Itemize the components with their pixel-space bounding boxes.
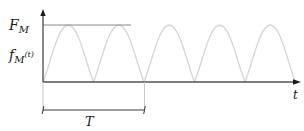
y-axis-arrow-icon: [40, 9, 45, 16]
rectified-sine-curve: [43, 25, 296, 82]
function-label: fM(t): [8, 47, 34, 65]
x-axis-arrow-icon: [293, 79, 301, 85]
time-axis-label: t: [293, 88, 298, 102]
waveform-diagram: FM fM(t) t T: [0, 0, 304, 131]
period-label: T: [85, 114, 95, 129]
peak-label: FM: [8, 17, 30, 35]
